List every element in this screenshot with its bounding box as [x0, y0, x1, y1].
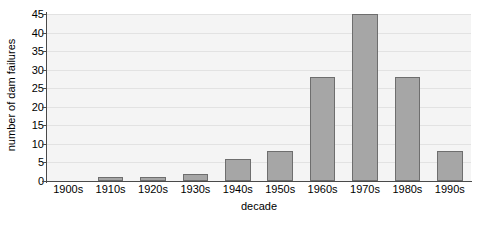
y-tick-label: 40: [22, 27, 44, 39]
x-tick-label: 1910s: [96, 183, 126, 195]
x-tick-label: 1930s: [180, 183, 210, 195]
x-axis-tick-labels: 1900s1910s1920s1930s1940s1950s1960s1970s…: [47, 183, 471, 199]
y-tick-label: 20: [22, 101, 44, 113]
y-tick-label: 10: [22, 138, 44, 150]
bar-1960s: [310, 77, 335, 181]
bar-1920s: [140, 177, 165, 181]
bar-1970s: [352, 14, 377, 181]
dam-failures-bar-chart: number of dam failures 05101520253035404…: [0, 0, 486, 225]
x-tick-label: 1950s: [265, 183, 295, 195]
x-tick-label: 1940s: [223, 183, 253, 195]
x-tick-label: 1920s: [138, 183, 168, 195]
x-axis-title: decade: [47, 200, 471, 212]
y-tick-label: 35: [22, 45, 44, 57]
y-tick-label: 5: [22, 156, 44, 168]
x-axis-line: [46, 181, 472, 182]
x-tick-label: 1980s: [392, 183, 422, 195]
x-tick-label: 1970s: [350, 183, 380, 195]
y-tick-label: 30: [22, 64, 44, 76]
bars-layer: [47, 14, 471, 181]
x-tick-label: 1960s: [308, 183, 338, 195]
y-tick-mark: [42, 181, 47, 182]
bar-1950s: [267, 151, 292, 181]
y-axis-tick-labels: 051015202530354045: [22, 0, 44, 225]
bar-1910s: [98, 177, 123, 181]
y-tick-label: 45: [22, 8, 44, 20]
x-tick-label: 1900s: [53, 183, 83, 195]
bar-1980s: [395, 77, 420, 181]
bar-1930s: [183, 174, 208, 181]
y-tick-label: 0: [22, 175, 44, 187]
bar-1940s: [225, 159, 250, 181]
y-axis-title: number of dam failures: [2, 0, 20, 190]
bar-1990s: [437, 151, 462, 181]
x-tick-label: 1990s: [435, 183, 465, 195]
y-tick-label: 25: [22, 82, 44, 94]
y-tick-label: 15: [22, 119, 44, 131]
